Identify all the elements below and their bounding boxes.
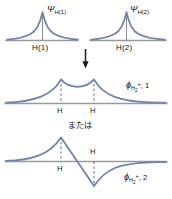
phi-index-antibonding: , 2 — [139, 173, 147, 182]
atom-label-middle-left: H — [57, 107, 62, 115]
axis-label-h1: H(1) — [32, 44, 48, 52]
psi-subscript-h1: H(1) — [54, 9, 66, 15]
axis-label-h2: H(2) — [116, 44, 132, 52]
orbital-label-bonding: ϕH2+, 1 — [126, 81, 149, 93]
atom-label-bottom-left: H — [57, 165, 62, 173]
orbital-diagram-figure — [0, 0, 172, 199]
psi-subscript-h2: H(2) — [137, 9, 149, 15]
wavefunction-label-h2: ΨH(2) — [130, 5, 149, 15]
down-arrow-icon — [82, 49, 88, 69]
atom-label-middle-right: H — [90, 107, 95, 115]
or-connector-text: または — [68, 122, 92, 130]
atom-label-bottom-right: H — [90, 148, 95, 156]
wavefunction-curve-h2 — [91, 12, 165, 39]
orbital-label-antibonding: ϕH2+, 2 — [124, 173, 147, 185]
phi-sub-count-antibonding: 2 — [133, 180, 136, 185]
phi-sub-count-bonding: 2 — [135, 88, 138, 93]
panel-top-right — [90, 12, 166, 41]
phi-index-bonding: , 1 — [141, 81, 149, 90]
panel-top-left — [6, 12, 78, 41]
wavefunction-label-h1: ΨH(1) — [47, 5, 66, 15]
